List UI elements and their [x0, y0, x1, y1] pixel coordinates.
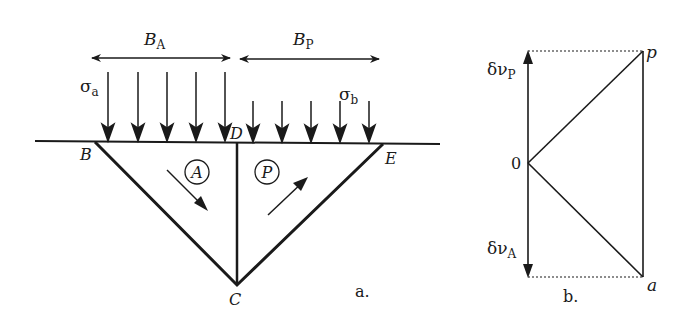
point-label-p: p — [646, 42, 657, 62]
hodograph-line-0p — [528, 51, 643, 163]
svg-text:P: P — [261, 163, 273, 182]
svg-text:A: A — [189, 163, 203, 182]
active-load-arrows — [102, 72, 231, 141]
caption-a: a. — [355, 282, 370, 301]
figure-a: BA BP σa σb B D E — [35, 29, 440, 309]
width-dimension-active: BA — [92, 29, 230, 58]
label-b-passive: BP — [292, 29, 314, 52]
label-dv-p: δνP — [487, 59, 516, 82]
caption-b: b. — [563, 287, 578, 306]
point-label-a: a — [647, 275, 657, 295]
figure-b: δνP δνA 0 p a b. — [487, 42, 657, 306]
width-dimension-passive: BP — [240, 29, 379, 59]
label-origin: 0 — [511, 154, 521, 173]
diagram-canvas: BA BP σa σb B D E — [0, 0, 694, 325]
label-b-active: BA — [143, 29, 166, 52]
label-sigma-a: σa — [80, 76, 99, 99]
arrow-up-icon — [523, 50, 533, 64]
point-label-b: B — [79, 145, 92, 164]
zone-p-motion-arrow-icon — [268, 177, 308, 215]
label-dv-a: δνA — [487, 238, 517, 261]
zone-p-marker: P — [255, 160, 279, 184]
point-label-d: D — [229, 124, 243, 143]
point-label-c: C — [229, 290, 241, 309]
hodograph-line-0a — [528, 163, 643, 277]
passive-load-arrows — [247, 101, 375, 142]
point-label-e: E — [384, 149, 397, 168]
zone-a-marker: A — [185, 160, 209, 184]
label-sigma-b: σb — [339, 84, 359, 107]
arrow-down-icon — [523, 264, 533, 278]
failure-wedge-outline — [95, 142, 383, 285]
